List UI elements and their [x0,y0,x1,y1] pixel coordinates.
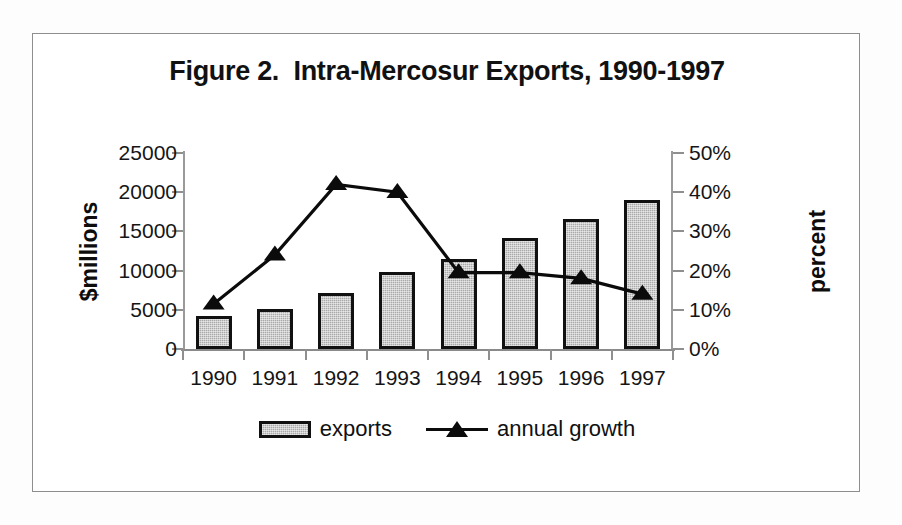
x-tick-mark [182,349,184,360]
growth-marker-1995 [509,263,531,278]
triangle-marker-icon [446,421,468,437]
bar-swatch-icon [259,421,311,438]
growth-polyline [214,184,643,304]
right-tick-label: 40% [689,181,789,202]
left-tick-label: 10000 [57,260,177,281]
right-tick-mark [673,191,684,193]
x-tick-label: 1994 [424,367,494,388]
right-tick-mark [673,230,684,232]
left-tick-label: 5000 [57,299,177,320]
x-tick-label: 1992 [301,367,371,388]
legend-item-annual-growth: annual growth [426,416,635,442]
left-tick-label: 0 [57,338,177,359]
x-tick-mark [611,349,613,360]
right-tick-label: 20% [689,260,789,281]
growth-markers [203,175,654,310]
triangle-line-swatch-icon [426,419,488,439]
line-series-annual-growth [183,153,673,349]
right-tick-label: 10% [689,299,789,320]
page-title: Figure 2. Intra-Mercosur Exports, 1990-1… [33,56,861,87]
x-tick-mark [550,349,552,360]
right-tick-label: 30% [689,220,789,241]
right-tick-mark [673,348,684,350]
right-tick-mark [673,309,684,311]
x-tick-label: 1993 [362,367,432,388]
legend: exports annual growth [33,416,861,442]
x-tick-mark [672,349,674,360]
right-tick-mark [673,152,684,154]
legend-item-exports: exports [259,416,392,442]
growth-marker-1992 [325,175,347,190]
right-tick-label: 50% [689,142,789,163]
legend-label-exports: exports [320,416,392,442]
right-axis-title-text: percent [805,209,832,292]
x-tick-label: 1997 [607,367,677,388]
x-tick-mark [366,349,368,360]
x-tick-label: 1995 [485,367,555,388]
right-tick-mark [673,270,684,272]
left-axis-title-text: $millions [77,201,104,301]
left-tick-label: 25000 [57,142,177,163]
left-tick-label: 15000 [57,220,177,241]
x-tick-label: 1990 [179,367,249,388]
figure-frame: Figure 2. Intra-Mercosur Exports, 1990-1… [32,33,860,492]
figure-page: Figure 2. Intra-Mercosur Exports, 1990-1… [0,0,902,525]
plot-area: 0500010000150002000025000 0%10%20%30%40%… [183,153,673,349]
x-tick-label: 1991 [240,367,310,388]
legend-label-annual-growth: annual growth [497,416,635,442]
left-tick-label: 20000 [57,181,177,202]
x-tick-label: 1996 [546,367,616,388]
right-tick-label: 0% [689,338,789,359]
x-tick-mark [305,349,307,360]
x-tick-mark [243,349,245,360]
x-tick-mark [427,349,429,360]
growth-marker-1994 [448,263,470,278]
right-axis-title: percent [803,153,833,349]
x-tick-mark [488,349,490,360]
